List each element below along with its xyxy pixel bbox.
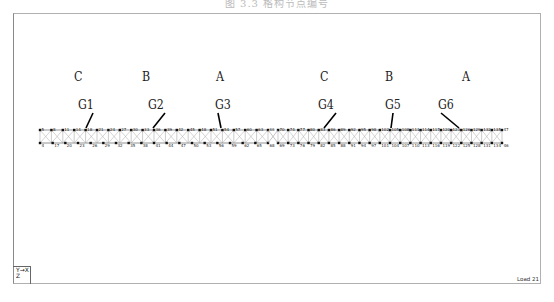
svg-text:63: 63: [258, 127, 264, 132]
svg-text:102: 102: [381, 127, 389, 132]
svg-text:98: 98: [371, 127, 377, 132]
axis-indicator: Y→X Z: [16, 267, 29, 279]
svg-text:4: 4: [42, 143, 45, 148]
svg-text:33: 33: [144, 127, 150, 132]
svg-text:47: 47: [181, 143, 187, 148]
svg-text:44: 44: [168, 143, 174, 148]
svg-text:26: 26: [92, 143, 98, 148]
svg-text:94: 94: [361, 143, 367, 148]
svg-text:125: 125: [463, 143, 471, 148]
svg-text:54: 54: [224, 127, 230, 132]
svg-text:11: 11: [64, 127, 70, 132]
svg-text:116: 116: [432, 143, 440, 148]
svg-text:42: 42: [178, 127, 184, 132]
svg-text:48: 48: [201, 127, 207, 132]
truss-drawing: 5811141821242730333639424548515457606366…: [0, 0, 554, 302]
svg-text:92: 92: [351, 127, 357, 132]
svg-text:47: 47: [504, 127, 510, 132]
svg-text:126: 126: [463, 127, 471, 132]
svg-text:129: 129: [473, 127, 481, 132]
svg-text:122: 122: [453, 143, 461, 148]
svg-text:86: 86: [330, 127, 336, 132]
svg-text:113: 113: [422, 143, 430, 148]
svg-text:56: 56: [219, 143, 225, 148]
svg-text:95: 95: [361, 127, 367, 132]
svg-text:111: 111: [412, 127, 420, 132]
svg-text:135: 135: [493, 127, 501, 132]
svg-text:110: 110: [412, 143, 420, 148]
svg-text:65: 65: [257, 143, 263, 148]
svg-text:38: 38: [143, 143, 149, 148]
svg-text:74: 74: [290, 127, 296, 132]
svg-text:5: 5: [42, 127, 45, 132]
svg-text:60: 60: [247, 127, 253, 132]
svg-text:35: 35: [130, 143, 136, 148]
svg-text:134: 134: [493, 143, 501, 148]
svg-text:8: 8: [53, 127, 56, 132]
svg-text:104: 104: [392, 143, 400, 148]
svg-text:59: 59: [232, 143, 238, 148]
svg-text:73: 73: [290, 143, 296, 148]
svg-text:30: 30: [133, 127, 139, 132]
svg-text:85: 85: [330, 143, 336, 148]
svg-text:128: 128: [473, 143, 481, 148]
svg-text:76: 76: [300, 143, 306, 148]
svg-text:77: 77: [300, 127, 306, 132]
svg-text:66: 66: [270, 127, 276, 132]
svg-text:107: 107: [402, 143, 410, 148]
svg-text:45: 45: [190, 127, 196, 132]
axis-label-z: Z: [16, 273, 29, 279]
svg-text:88: 88: [341, 143, 347, 148]
svg-text:70: 70: [280, 127, 286, 132]
svg-text:117: 117: [432, 127, 440, 132]
svg-text:69: 69: [280, 143, 286, 148]
svg-text:39: 39: [167, 127, 173, 132]
svg-text:105: 105: [392, 127, 400, 132]
svg-text:32: 32: [118, 143, 124, 148]
svg-text:91: 91: [351, 143, 357, 148]
svg-text:101: 101: [381, 143, 389, 148]
svg-text:27: 27: [121, 127, 127, 132]
svg-text:18: 18: [87, 127, 93, 132]
svg-text:23: 23: [80, 143, 86, 148]
svg-text:68: 68: [270, 143, 276, 148]
svg-text:108: 108: [402, 127, 410, 132]
svg-text:114: 114: [422, 127, 430, 132]
svg-text:97: 97: [371, 143, 377, 148]
svg-text:132: 132: [483, 127, 491, 132]
svg-text:21: 21: [99, 127, 105, 132]
svg-text:80: 80: [310, 127, 316, 132]
svg-text:14: 14: [76, 127, 82, 132]
svg-text:123: 123: [453, 127, 461, 132]
svg-text:51: 51: [213, 127, 219, 132]
svg-text:89: 89: [341, 127, 347, 132]
svg-text:57: 57: [235, 127, 241, 132]
svg-text:46: 46: [504, 143, 510, 148]
svg-text:62: 62: [244, 143, 250, 148]
svg-text:41: 41: [156, 143, 162, 148]
load-case-label: Load 21: [517, 276, 539, 282]
svg-text:29: 29: [105, 143, 111, 148]
svg-text:79: 79: [310, 143, 316, 148]
svg-text:17: 17: [54, 143, 60, 148]
svg-text:53: 53: [206, 143, 212, 148]
svg-text:20: 20: [67, 143, 73, 148]
svg-text:82: 82: [320, 143, 326, 148]
svg-text:36: 36: [156, 127, 162, 132]
svg-text:24: 24: [110, 127, 116, 132]
svg-text:119: 119: [442, 143, 450, 148]
svg-text:131: 131: [483, 143, 491, 148]
svg-text:120: 120: [442, 127, 450, 132]
svg-text:50: 50: [194, 143, 200, 148]
